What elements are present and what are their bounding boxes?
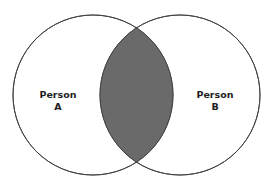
venn-diagram: Person A Person B [0, 0, 274, 187]
intersection-region [100, 15, 260, 175]
label-person-a-line1: Person [39, 89, 76, 100]
label-person-b-line1: Person [196, 89, 233, 100]
label-person-b-line2: B [211, 101, 218, 112]
label-person-a-line2: A [54, 101, 62, 112]
